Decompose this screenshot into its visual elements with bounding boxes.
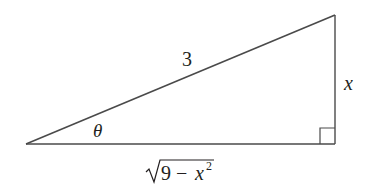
radicand-variable: x: [194, 162, 204, 184]
hypotenuse-label: 3: [182, 48, 192, 70]
radicand-exponent: 2: [206, 159, 212, 173]
triangle: [26, 15, 335, 144]
right-triangle-diagram: 3 x θ 9 − x 2: [0, 0, 377, 194]
adjacent-label: 9 − x 2: [146, 159, 214, 184]
radicand-number: 9: [161, 162, 171, 184]
angle-label: θ: [93, 120, 102, 141]
right-angle-marker: [320, 128, 335, 144]
minus-sign: −: [176, 162, 187, 184]
hypotenuse-side: [26, 15, 335, 144]
opposite-label: x: [343, 72, 353, 94]
